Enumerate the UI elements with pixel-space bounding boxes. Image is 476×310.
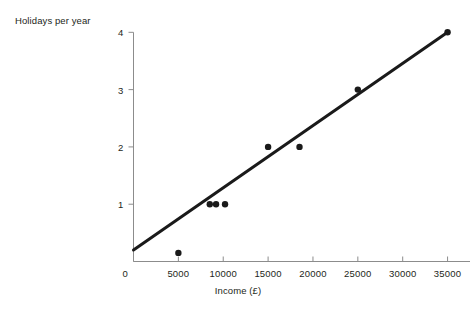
data-point <box>222 201 228 207</box>
scatter-chart: Holidays per year Income (£) 50001000015… <box>0 0 476 310</box>
data-point <box>265 144 271 150</box>
data-point <box>296 144 302 150</box>
trend-line-segment <box>134 32 448 250</box>
data-point <box>355 86 361 92</box>
data-points-group <box>175 29 451 256</box>
data-point <box>444 29 450 35</box>
data-point <box>175 250 181 256</box>
plot-area <box>0 0 476 310</box>
data-point <box>207 201 213 207</box>
trend-line <box>134 32 448 250</box>
data-point <box>213 201 219 207</box>
